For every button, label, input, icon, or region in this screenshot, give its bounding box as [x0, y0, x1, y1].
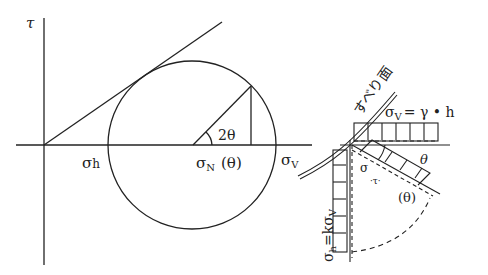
two-theta-arc: [206, 132, 212, 145]
two-theta-label: 2θ: [218, 127, 235, 143]
sigma-h-label: σh: [82, 154, 100, 172]
sigma-h-equation: σh=kσV: [320, 208, 338, 262]
tau-axis-label: τ: [26, 14, 35, 32]
sigma-n-label: σN(θ): [196, 154, 242, 173]
sigma-small-label: σ: [360, 161, 368, 175]
sigma-v-label: σV: [281, 151, 299, 170]
vertical-load-arrows: [368, 123, 424, 140]
theta-arc-dashed: [352, 198, 430, 252]
tau-small-label: ·τ·: [370, 176, 381, 186]
theta-upper-label: θ: [420, 152, 428, 167]
mohr-circle-diagram: τ σh 2θ σN(θ) σV: [0, 0, 488, 275]
sigma-v-equation: σV= γ • h: [385, 104, 455, 122]
theta-lower-label: (θ): [398, 190, 416, 205]
failure-envelope-line: [44, 22, 222, 145]
